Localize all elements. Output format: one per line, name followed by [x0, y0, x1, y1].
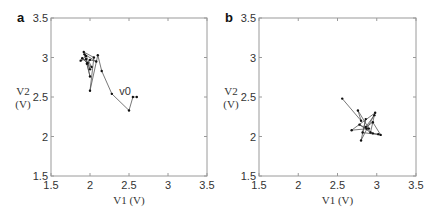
panel-label: a [17, 10, 25, 25]
trajectory-line [342, 99, 380, 141]
data-point [360, 120, 362, 122]
data-point [89, 89, 91, 91]
y-tick-label: 2.5 [241, 91, 256, 103]
data-point [372, 121, 374, 123]
panel-label: b [225, 10, 233, 25]
y-tick-label: 2 [250, 131, 256, 143]
data-point [132, 96, 134, 98]
data-point [360, 139, 362, 141]
data-point [379, 134, 381, 136]
data-point [341, 97, 343, 99]
data-point [86, 63, 88, 65]
data-point [93, 56, 95, 58]
data-point [365, 127, 367, 129]
data-point [357, 109, 359, 111]
x-tick-label: 2.5 [121, 179, 136, 191]
y-axis-label: V2 [16, 85, 29, 97]
data-point [97, 54, 99, 56]
y-tick-label: 1.5 [33, 170, 48, 182]
y-tick-label: 3.5 [33, 12, 48, 24]
x-tick-label: 3.5 [199, 179, 214, 191]
data-point [374, 112, 376, 114]
data-point [95, 60, 97, 62]
data-point [350, 129, 352, 131]
data-point [79, 59, 81, 61]
data-point [128, 109, 130, 111]
y-tick-label: 3 [250, 52, 256, 64]
data-point [89, 68, 91, 70]
chart-a: 1.522.533.51.522.533.5V1 (V)V2(V)av0 [0, 0, 218, 218]
data-point [368, 127, 370, 129]
data-point [377, 133, 379, 135]
x-axis-label: V1 (V) [322, 194, 354, 207]
chart-b: 1.522.533.51.522.533.5V1 (V)V2(V)b [218, 0, 437, 218]
x-tick-label: 2 [295, 179, 301, 191]
y-axis-label: V2 [224, 85, 237, 97]
y-tick-label: 2 [42, 131, 48, 143]
trajectory-line [81, 52, 137, 110]
data-point [358, 123, 360, 125]
data-point [83, 53, 85, 55]
data-point [101, 70, 103, 72]
y-tick-label: 3.5 [241, 12, 256, 24]
data-point [372, 132, 374, 134]
y-tick-label: 3 [42, 52, 48, 64]
data-point [90, 66, 92, 68]
panel-b: 1.522.533.51.522.533.5V1 (V)V2(V)b [218, 0, 437, 218]
data-point [111, 93, 113, 95]
plot-frame [259, 18, 416, 176]
data-point [81, 57, 83, 59]
x-tick-label: 2 [87, 179, 93, 191]
x-tick-label: 3 [165, 179, 171, 191]
annotation-v0: v0 [119, 85, 131, 97]
data-point [361, 131, 363, 133]
panel-a: 1.522.533.51.522.533.5V1 (V)V2(V)av0 [0, 0, 218, 218]
data-point [85, 58, 87, 60]
x-tick-label: 2.5 [330, 179, 345, 191]
data-point [83, 51, 85, 53]
y-axis-label-unit: (V) [223, 98, 239, 111]
x-axis-label: V1 (V) [113, 194, 145, 207]
x-tick-label: 3.5 [408, 179, 423, 191]
y-tick-label: 2.5 [33, 91, 48, 103]
data-point [136, 96, 138, 98]
data-point [89, 75, 91, 77]
data-point [369, 131, 371, 133]
data-point [373, 114, 375, 116]
x-tick-label: 3 [374, 179, 380, 191]
data-point [365, 118, 367, 120]
y-tick-label: 1.5 [241, 170, 256, 182]
data-point [89, 59, 91, 61]
y-axis-label-unit: (V) [15, 98, 31, 111]
